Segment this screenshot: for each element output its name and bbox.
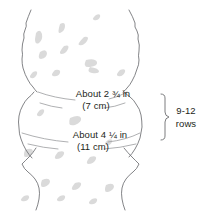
knitting-diagram: About 2 ¾ in (7 cm) About 4 ¼ in (11 cm)… — [0, 0, 210, 212]
outline-right-upper — [123, 10, 139, 92]
outline-left-upper — [22, 10, 37, 92]
lower-measurement-line — [22, 133, 140, 149]
yarn-texture-marks — [21, 14, 125, 204]
row-count-bracket — [161, 94, 169, 140]
upper-measurement-line — [38, 92, 127, 108]
outline-left-waist — [19, 92, 35, 158]
outline-right-waist — [123, 91, 142, 157]
diagram-illustration — [0, 0, 210, 212]
outline-right-lower — [122, 148, 140, 210]
